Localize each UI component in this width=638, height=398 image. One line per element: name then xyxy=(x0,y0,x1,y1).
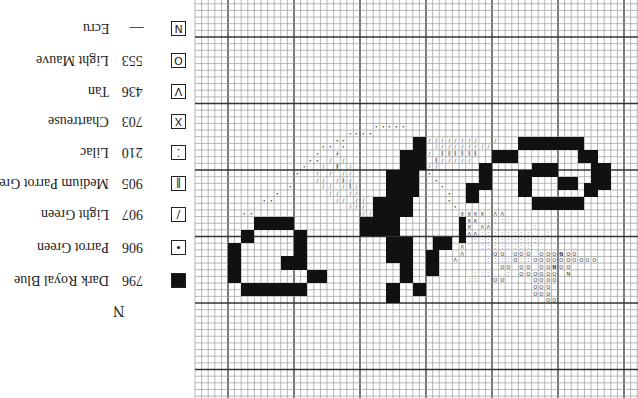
chart-label-n: N xyxy=(113,302,125,320)
stitch-symbol: • xyxy=(294,170,301,177)
stitch-symbol: • xyxy=(301,163,308,170)
stitch-dark-royal-blue xyxy=(584,183,597,196)
stitch-symbol: X xyxy=(459,217,466,224)
legend-label: —Ecru xyxy=(83,20,143,36)
stitch-symbol: ⁚ xyxy=(485,243,492,250)
stitch-dark-royal-blue xyxy=(578,150,598,163)
stitch-symbol: X xyxy=(466,223,473,230)
floss-name: Medium Parrot Green xyxy=(0,176,109,191)
stitch-symbol: • xyxy=(307,157,314,164)
legend-symbol-letter-icon: N xyxy=(171,21,186,36)
stitch-symbol: O xyxy=(518,250,525,257)
stitch-symbol: O xyxy=(499,276,506,283)
stitch-dark-royal-blue xyxy=(466,183,479,203)
stitch-symbol: V xyxy=(485,223,492,230)
stitch-dark-royal-blue xyxy=(492,150,518,163)
stitch-dark-royal-blue xyxy=(241,283,307,296)
legend-item: ‖ 905Medium Parrot Green xyxy=(0,176,195,206)
stitch-symbol: O xyxy=(505,263,512,270)
stitch-symbol: • xyxy=(268,197,275,204)
stitch-dark-royal-blue xyxy=(518,137,584,150)
stitch-symbol: X xyxy=(459,230,466,237)
stitch-symbol: / xyxy=(353,190,360,197)
floss-name: Tan xyxy=(88,84,109,99)
stitch-symbol: ⁚ xyxy=(485,256,492,263)
stitch-symbol: ⁚ xyxy=(525,243,532,250)
floss-code: 796 xyxy=(109,272,143,288)
stitch-symbol: • xyxy=(314,150,321,157)
stitch-symbol: • xyxy=(274,190,281,197)
stitch-symbol: / xyxy=(327,170,334,177)
stitch-symbol: / xyxy=(367,223,374,230)
legend-label: 210Lilac xyxy=(80,144,143,160)
floss-name: Dark Royal Blue xyxy=(14,273,109,288)
legend-symbol-cross-icon: X xyxy=(171,114,186,129)
stitch-symbol: ⁚ xyxy=(472,276,479,283)
stitch-dark-royal-blue xyxy=(294,230,307,270)
stitch-symbol: ‖ xyxy=(439,150,446,157)
stitch-symbol: / xyxy=(314,170,321,177)
legend-label: 553Light Mauve xyxy=(36,52,143,68)
stitch-symbol: / xyxy=(327,183,334,190)
stitch-symbol: O xyxy=(551,296,558,303)
stitch-dark-royal-blue xyxy=(228,243,241,283)
stitch-dark-royal-blue xyxy=(413,283,426,296)
stitch-symbol: / xyxy=(353,197,360,204)
stitch-symbol: • xyxy=(439,183,446,190)
stitch-symbol: / xyxy=(485,143,492,150)
stitch-symbol: / xyxy=(340,197,347,204)
stitch-symbol: • xyxy=(353,130,360,137)
floss-code: 553 xyxy=(109,52,143,68)
stitch-symbol: • xyxy=(400,123,407,130)
stitch-symbol: ⁚ xyxy=(505,243,512,250)
stitch-dark-royal-blue xyxy=(281,256,294,269)
stitch-symbol: X xyxy=(459,210,466,217)
stitch-symbol: • xyxy=(261,197,268,204)
stitch-dark-royal-blue xyxy=(518,170,531,197)
stitch-dark-royal-blue xyxy=(532,197,585,210)
stitch-symbol: / xyxy=(360,210,367,217)
legend-item: ⁚ 210Lilac xyxy=(0,145,195,175)
stitch-symbol: O xyxy=(565,263,572,270)
stitch-symbol: • xyxy=(426,170,433,177)
stitch-symbol: ‖ xyxy=(459,150,466,157)
legend-symbol-solid-icon xyxy=(171,273,186,288)
legend-label: 796Dark Royal Blue xyxy=(14,272,143,288)
legend-item: V 436Tan xyxy=(0,84,195,114)
stitch-symbol: N xyxy=(565,270,572,277)
floss-code: 906 xyxy=(109,239,143,255)
stitch-symbol: / xyxy=(353,203,360,210)
stitch-dark-royal-blue xyxy=(532,163,558,176)
stitch-symbol: O xyxy=(584,256,591,263)
stitch-symbol: ‖ xyxy=(472,150,479,157)
stitch-symbol: ⁚ xyxy=(505,230,512,237)
stitch-symbol: / xyxy=(320,163,327,170)
floss-name: Ecru xyxy=(83,21,109,36)
stitch-symbol: ⁚ xyxy=(472,237,479,244)
stitch-symbol: O xyxy=(551,276,558,283)
floss-code: 436 xyxy=(109,83,143,99)
stitch-symbol: X xyxy=(472,217,479,224)
floss-name: Light Mauve xyxy=(36,53,109,68)
stitch-symbol: / xyxy=(340,183,347,190)
stitch-symbol: ⁚ xyxy=(492,217,499,224)
stitch-symbol: O xyxy=(492,250,499,257)
stitch-dark-royal-blue xyxy=(307,270,327,283)
stitch-symbol: O xyxy=(558,263,565,270)
floss-code: 905 xyxy=(109,175,143,191)
stitch-symbol: ⁚ xyxy=(505,270,512,277)
legend-label: 905Medium Parrot Green xyxy=(0,175,143,191)
stitch-symbol: • xyxy=(373,123,380,130)
legend-symbol-double-bar-icon: ‖ xyxy=(171,176,186,191)
stitch-symbol: • xyxy=(320,143,327,150)
stitch-symbol: / xyxy=(459,157,466,164)
legend-item: 796Dark Royal Blue xyxy=(0,273,195,303)
floss-name: Lilac xyxy=(80,145,109,160)
stitch-symbol: O xyxy=(545,283,552,290)
stitch-symbol: ‖ xyxy=(433,157,440,164)
stitch-symbol: • xyxy=(446,190,453,197)
stitch-symbol: V xyxy=(499,210,506,217)
legend-symbol-slash-icon: / xyxy=(171,207,186,222)
stitch-symbol: O xyxy=(538,290,545,297)
legend-item: X 703Chartreuse xyxy=(0,114,195,144)
